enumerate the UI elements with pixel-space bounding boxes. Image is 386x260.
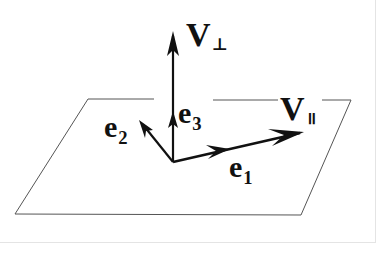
label-e3: e3 [178,98,202,128]
e2-arrow [139,120,173,162]
plane-bottom-edge [15,214,301,215]
plane-left-edge [15,99,88,214]
label-e1: e1 [229,152,253,182]
label-v-perp: V⊥ [186,18,228,52]
e1-arrow [206,145,230,159]
label-v-par: V॥ [280,92,316,126]
label-e2: e2 [104,112,128,142]
